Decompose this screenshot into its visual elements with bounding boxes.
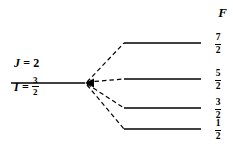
i-denominator: 2 [32, 87, 39, 97]
f-level-label-3-2: 3 2 [207, 98, 229, 120]
f-fraction-7-2: 7 2 [215, 33, 222, 55]
branch-line-1-2 [87, 85, 124, 129]
i-quantum-number-label: I = 3 2 [14, 76, 84, 97]
f-level-label-1-2: 1 2 [207, 119, 229, 141]
f-denominator-5-2: 2 [215, 81, 222, 92]
f-numerator-3-2: 3 [215, 98, 222, 110]
f-fraction-5-2: 5 2 [215, 69, 222, 91]
j-value: 2 [33, 57, 39, 69]
j-equals-sign: = [23, 57, 30, 69]
i-equals-sign: = [22, 81, 29, 93]
j-quantum-number-label: J = 2 [14, 57, 84, 69]
f-level-label-5-2: 5 2 [207, 69, 229, 91]
f-level-label-7-2: 7 2 [207, 33, 229, 55]
branch-line-7-2 [87, 43, 124, 82]
i-symbol: I [14, 81, 19, 93]
i-numerator: 3 [32, 76, 39, 87]
f-fraction-3-2: 3 2 [215, 98, 222, 120]
f-fraction-1-2: 1 2 [215, 119, 222, 141]
j-symbol: J [14, 57, 20, 69]
f-denominator-1-2: 2 [215, 131, 222, 142]
f-column-header: F [218, 6, 227, 19]
i-value-fraction: 3 2 [32, 76, 39, 97]
f-numerator-5-2: 5 [215, 69, 222, 81]
f-numerator-7-2: 7 [215, 33, 222, 45]
f-denominator-7-2: 2 [215, 45, 222, 56]
hyperfine-splitting-figure: J = 2 I = 3 2 F 7 2 5 2 3 2 [0, 0, 233, 147]
quantum-number-labels: J = 2 I = 3 2 [14, 57, 84, 97]
branch-line-3-2 [87, 84, 124, 108]
f-numerator-1-2: 1 [215, 119, 222, 131]
